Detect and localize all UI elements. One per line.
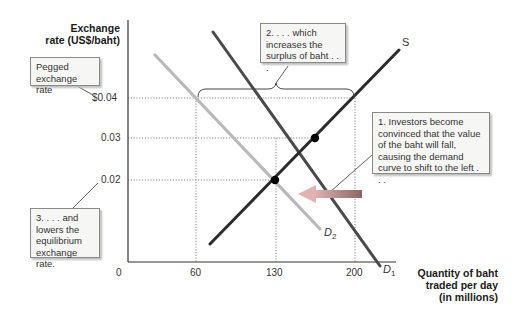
- callout-step1-line1: 1. Investors become: [378, 116, 484, 128]
- demand-curve-d2: [155, 55, 320, 229]
- callout-pegged-line2: exchange rate: [36, 73, 94, 96]
- supply-label: S: [402, 36, 409, 48]
- equilibrium-point-initial: [311, 134, 319, 142]
- callout-step3-line1: 3. . . . and: [36, 212, 94, 224]
- y-tick-0.03: 0.03: [101, 132, 120, 143]
- x-axis-title: Quantity of baht traded per day (in mill…: [380, 267, 498, 303]
- callout-step2-line1: 2. . . . which: [266, 27, 340, 39]
- x-axis-title-line2: traded per day: [380, 279, 498, 291]
- callout-step1-line5: curve to shift to the left . . .: [378, 162, 484, 185]
- callout-step3-line3: equilibrium: [36, 235, 94, 247]
- callout-step3-lowers-rate: 3. . . . and lowers the equilibrium exch…: [30, 208, 100, 258]
- equilibrium-point-new: [271, 176, 279, 184]
- callout-step2-surplus: 2. . . . which increases the surplus of …: [260, 23, 346, 63]
- callout-step3-line2: lowers the: [36, 224, 94, 236]
- x-tick-200: 200: [346, 267, 363, 278]
- callout-pegged-rate: Pegged exchange rate: [30, 57, 100, 86]
- d1-label-sub: 1: [391, 269, 395, 278]
- x-axis-title-line1: Quantity of baht: [380, 267, 498, 279]
- y-axis-title-line2: rate (US$/baht): [20, 34, 120, 46]
- x-tick-130: 130: [266, 267, 283, 278]
- y-tick-0.02: 0.02: [101, 174, 120, 185]
- x-axis-title-line3: (in millions): [380, 291, 498, 303]
- y-axis-title: Exchange rate (US$/baht): [20, 22, 120, 46]
- callout-step3-line4: exchange rate.: [36, 247, 94, 270]
- reference-gridlines: [128, 98, 355, 262]
- x-tick-0: 0: [116, 267, 122, 278]
- callout-step1-line2: convinced that the value: [378, 128, 484, 140]
- d1-label: D1: [383, 263, 395, 278]
- y-axis-title-line1: Exchange: [20, 22, 120, 34]
- d1-label-letter: D: [383, 263, 391, 275]
- surplus-brace: [198, 83, 354, 97]
- y-tick-0.04: $0.04: [92, 92, 117, 103]
- shift-left-arrow: [298, 185, 362, 203]
- callout-step1-line3: of the baht will fall,: [378, 139, 484, 151]
- d2-label: D2: [324, 226, 336, 241]
- d2-label-letter: D: [324, 226, 332, 238]
- d2-label-sub: 2: [332, 232, 336, 241]
- callout-pegged-line1: Pegged: [36, 61, 94, 73]
- callout-step2-line3: surplus of baht . . .: [266, 50, 340, 73]
- callout-step1-line4: causing the demand: [378, 151, 484, 163]
- callout-step1-investors: 1. Investors become convinced that the v…: [372, 112, 490, 174]
- callout-step2-line2: increases the: [266, 39, 340, 51]
- x-tick-60: 60: [190, 267, 201, 278]
